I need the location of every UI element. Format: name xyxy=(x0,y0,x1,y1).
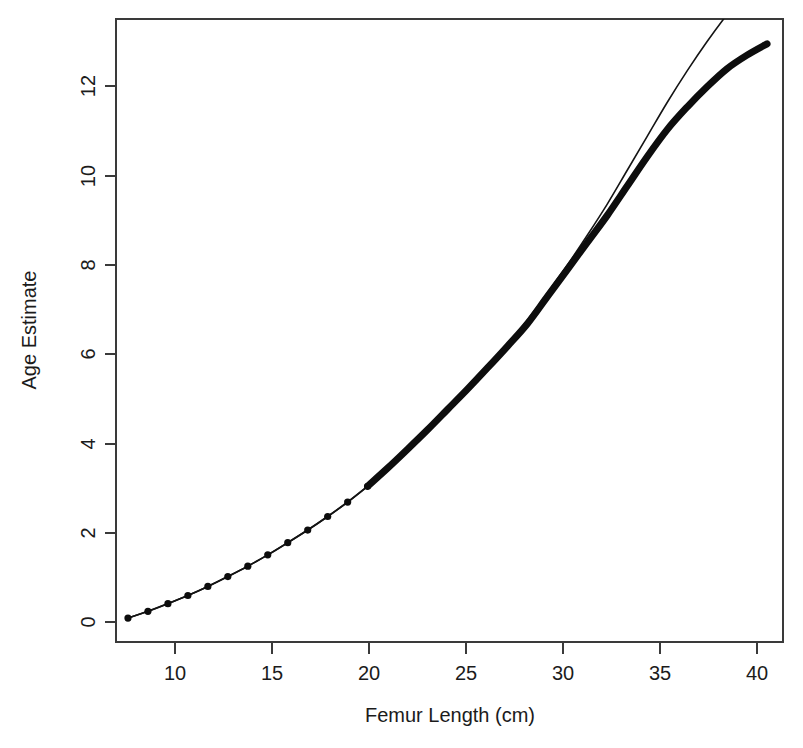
y-tick-label-8: 8 xyxy=(77,259,99,270)
y-tick-label-2: 2 xyxy=(77,527,99,538)
age-estimate-curve-thin-segment xyxy=(128,486,368,618)
data-point xyxy=(184,592,191,599)
age-estimate-curve-line xyxy=(368,44,767,486)
y-axis-ticks xyxy=(105,86,116,622)
data-point xyxy=(164,600,171,607)
data-point xyxy=(284,539,291,546)
x-axis-ticks xyxy=(175,642,757,654)
x-axis-tick-labels: 10 15 20 25 30 35 40 xyxy=(164,662,768,684)
y-tick-label-6: 6 xyxy=(77,348,99,359)
age-estimate-vs-femur-length-chart: 0 2 4 6 8 10 12 10 15 20 25 30 35 40 xyxy=(0,0,803,748)
y-tick-label-0: 0 xyxy=(77,616,99,627)
x-tick-label-20: 20 xyxy=(358,662,380,684)
data-point xyxy=(144,608,151,615)
reference-curve-line xyxy=(128,0,767,618)
x-tick-label-10: 10 xyxy=(164,662,186,684)
chart-page: 0 2 4 6 8 10 12 10 15 20 25 30 35 40 xyxy=(0,0,803,748)
y-tick-label-4: 4 xyxy=(77,438,99,449)
x-tick-label-25: 25 xyxy=(455,662,477,684)
data-point xyxy=(264,551,271,558)
data-point xyxy=(124,614,131,621)
x-tick-label-30: 30 xyxy=(552,662,574,684)
data-point xyxy=(244,563,251,570)
data-point xyxy=(204,583,211,590)
x-tick-label-40: 40 xyxy=(746,662,768,684)
data-point xyxy=(304,526,311,533)
data-point xyxy=(224,573,231,580)
x-tick-label-35: 35 xyxy=(649,662,671,684)
y-tick-label-10: 10 xyxy=(77,165,99,187)
data-point xyxy=(344,498,351,505)
y-axis-tick-labels: 0 2 4 6 8 10 12 xyxy=(77,75,99,628)
y-tick-label-12: 12 xyxy=(77,75,99,97)
data-point xyxy=(324,513,331,520)
x-axis-title: Femur Length (cm) xyxy=(365,704,535,726)
data-curves xyxy=(124,0,767,622)
y-axis-title: Age Estimate xyxy=(18,271,40,390)
x-tick-label-15: 15 xyxy=(261,662,283,684)
data-point xyxy=(364,483,371,490)
data-point-markers xyxy=(124,483,371,622)
